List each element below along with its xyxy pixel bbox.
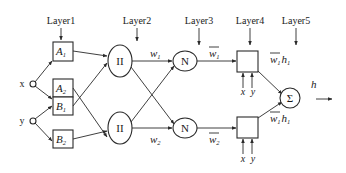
- svg-text:w2: w2: [209, 133, 220, 146]
- svg-text:N: N: [181, 122, 189, 134]
- svg-text:x: x: [240, 86, 246, 97]
- layer1-node-b2: B2: [53, 130, 73, 148]
- weight-w1-label: w1: [150, 47, 161, 60]
- layer3-node-1: N: [173, 51, 197, 71]
- layer4-label: Layer4: [236, 15, 264, 26]
- input-x-label: x: [20, 78, 25, 89]
- layer3-node-2: N: [173, 118, 197, 138]
- layer-pointer-arrows: [61, 28, 296, 45]
- layer4-node-1-xy-inputs: x y: [240, 73, 256, 97]
- input-edges: [35, 61, 52, 141]
- weight-w2-label: w2: [150, 133, 161, 146]
- layer2-to-layer3-edges: [131, 61, 174, 128]
- svg-text:y: y: [250, 153, 256, 164]
- input-y-label: y: [20, 115, 25, 126]
- normalized-weight-w2-label: w2: [209, 133, 220, 146]
- svg-text:Σ: Σ: [287, 92, 293, 104]
- layer1-to-layer2-edges: [73, 51, 107, 139]
- svg-text:w1h1: w1h1: [270, 112, 290, 125]
- layer2-node-1: II: [108, 45, 132, 77]
- layer5-label: Layer5: [282, 15, 310, 26]
- layer2-label: Layer2: [123, 15, 151, 26]
- svg-text:x: x: [240, 153, 246, 164]
- svg-text:w1h1: w1h1: [270, 53, 290, 66]
- layer1-node-b1: B1: [53, 97, 73, 115]
- layer4-node-1: [237, 51, 258, 72]
- svg-text:II: II: [116, 55, 124, 67]
- output-h-label: h: [311, 78, 317, 90]
- svg-text:N: N: [181, 55, 189, 67]
- normalized-weight-w1-label: w1: [209, 47, 220, 60]
- layer4-to-layer5-edges: [258, 71, 282, 118]
- layer4-output-1-label: w1h1: [270, 53, 290, 66]
- layer4-output-2-label: w1h1: [270, 112, 290, 125]
- layer4-node-2-xy-inputs: x y: [240, 139, 256, 164]
- layer1-node-a1: A1: [53, 42, 73, 61]
- layer4-node-2: [237, 117, 258, 138]
- layer3-label: Layer3: [185, 15, 213, 26]
- layer5-sum-node: Σ: [280, 88, 300, 108]
- anfis-diagram: Layer1 Layer2 Layer3 Layer4 Layer5 x y A…: [0, 0, 346, 173]
- layer1-label: Layer1: [47, 15, 75, 26]
- layer3-to-layer4-edges: [197, 61, 236, 128]
- svg-text:II: II: [116, 122, 124, 134]
- layer2-node-2: II: [108, 112, 132, 144]
- svg-text:y: y: [250, 86, 256, 97]
- layer1-node-a2: A2: [53, 79, 73, 97]
- svg-text:w1: w1: [209, 47, 220, 60]
